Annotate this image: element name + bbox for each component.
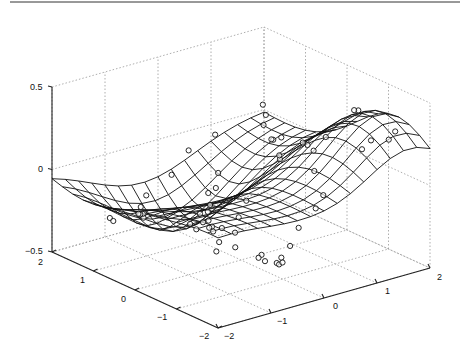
data-point-marker	[256, 255, 261, 260]
data-point-marker	[188, 221, 193, 226]
data-point-marker	[323, 134, 328, 139]
data-point-marker	[296, 225, 301, 230]
data-point-marker	[217, 240, 222, 245]
data-point-marker	[206, 190, 211, 195]
data-point-marker	[213, 185, 218, 190]
data-point-marker	[216, 170, 221, 175]
data-point-marker	[261, 122, 266, 127]
surface-plot: 0.5 0 −0.5 2 1 0 −1 −2 −2 −1 0 1 2	[0, 0, 467, 364]
data-point-marker	[305, 142, 310, 147]
y-tick-label: 0	[121, 294, 126, 304]
data-point-marker	[269, 137, 274, 142]
data-point-marker	[359, 147, 364, 152]
data-point-marker	[169, 172, 174, 177]
x-tick-label: 0	[333, 301, 338, 311]
data-point-marker	[232, 230, 237, 235]
data-point-marker	[368, 138, 373, 143]
data-point-marker	[321, 193, 326, 198]
data-point-marker	[288, 243, 293, 248]
data-point-marker	[197, 211, 202, 216]
data-point-marker	[144, 193, 149, 198]
x-tick-label: −2	[224, 331, 234, 341]
data-point-marker	[111, 218, 116, 223]
z-tick-label: −0.5	[25, 246, 43, 256]
data-point-marker	[393, 129, 398, 134]
data-point-marker	[219, 225, 224, 230]
data-point-marker	[233, 245, 238, 250]
data-point-marker	[386, 137, 391, 142]
data-point-marker	[207, 225, 212, 230]
data-point-marker	[194, 227, 199, 232]
data-point-marker	[352, 108, 357, 113]
z-tick-label: 0.5	[30, 82, 43, 92]
data-point-marker	[312, 168, 317, 173]
y-tick-label: −2	[199, 331, 209, 341]
z-tick-label: 0	[38, 164, 43, 174]
data-point-marker	[244, 198, 249, 203]
data-point-marker	[262, 259, 267, 264]
data-point-marker	[263, 112, 268, 117]
data-point-marker	[260, 102, 265, 107]
x-tick-label: −1	[277, 316, 287, 326]
y-tick-label: −1	[157, 312, 167, 322]
data-point-marker	[205, 209, 210, 214]
y-tick-label: 1	[80, 275, 85, 285]
x-tick-label: 2	[437, 272, 442, 282]
data-point-marker	[279, 255, 284, 260]
data-point-marker	[213, 132, 218, 137]
grid-lines	[52, 27, 430, 328]
data-point-marker	[208, 202, 213, 207]
data-point-marker	[279, 135, 284, 140]
data-point-marker	[300, 140, 305, 145]
data-point-marker	[236, 215, 241, 220]
data-point-marker	[313, 206, 318, 211]
data-point-marker	[311, 148, 316, 153]
figure: 0.5 0 −0.5 2 1 0 −1 −2 −2 −1 0 1 2	[0, 0, 467, 364]
data-point-marker	[206, 218, 211, 223]
data-point-marker	[136, 211, 141, 216]
data-point-marker	[200, 220, 205, 225]
data-point-marker	[214, 249, 219, 254]
data-point-marker	[277, 153, 282, 158]
data-point-marker	[138, 204, 143, 209]
data-point-marker	[186, 148, 191, 153]
data-point-marker	[280, 260, 285, 265]
x-tick-label: 1	[385, 286, 390, 296]
y-tick-label: 2	[38, 257, 43, 267]
